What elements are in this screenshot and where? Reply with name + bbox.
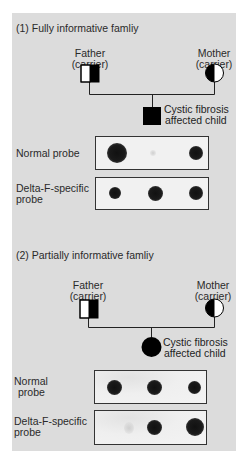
blot-dot-mother xyxy=(188,381,201,394)
father-carrier-square-icon xyxy=(80,300,98,318)
blot-dot-father xyxy=(107,380,122,395)
blot-dot-father xyxy=(124,422,134,434)
section-2-deltaf-probe-blot xyxy=(94,410,207,445)
mother-carrier-circle-icon xyxy=(206,299,224,317)
section-2-deltaf-probe-label: Delta-F-specific probe xyxy=(14,416,87,438)
blot-dot-mother xyxy=(186,418,204,436)
child-label-line2: affected child xyxy=(163,348,228,359)
section-2-pedigree-lines xyxy=(89,317,215,337)
probe-label-line2: probe xyxy=(14,387,48,398)
blot-dot-child xyxy=(147,380,162,395)
section-2-normal-probe-label: Normal probe xyxy=(14,376,48,398)
affected-child-circle-icon xyxy=(142,337,162,357)
blot-dot-child xyxy=(147,420,162,435)
probe-label-line2: probe xyxy=(14,427,87,438)
section-2-normal-probe-blot xyxy=(94,370,207,404)
section-2-child-label: Cystic fibrosis affected child xyxy=(163,337,228,359)
